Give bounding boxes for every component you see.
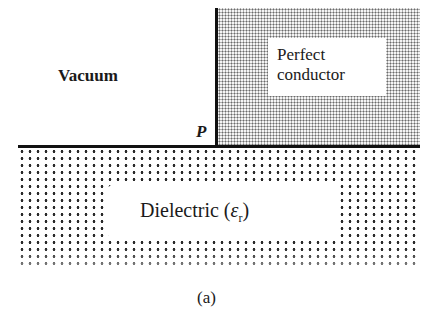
conductor-boundary-line	[215, 8, 218, 148]
vacuum-label: Vacuum	[58, 66, 118, 86]
conductor-label: Perfect conductor	[277, 45, 345, 85]
dielectric-label-text: Dielectric (	[140, 199, 231, 221]
point-p-label: P	[196, 122, 206, 142]
dielectric-boundary-line	[18, 145, 420, 148]
figure-caption: (a)	[197, 288, 216, 308]
dielectric-label-close: )	[242, 199, 249, 221]
conductor-label-line2: conductor	[277, 65, 345, 85]
conductor-label-line1: Perfect	[277, 45, 345, 65]
dielectric-label: Dielectric (εr)	[140, 199, 249, 226]
